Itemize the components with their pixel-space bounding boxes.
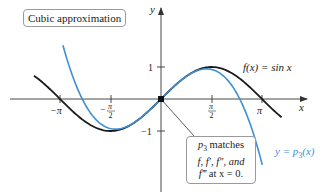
- svg-text:π: π: [108, 102, 113, 111]
- x-tick-label-half-pi: π 2: [208, 102, 216, 120]
- origin-point: [158, 96, 164, 102]
- cubic-curve-label: y = p3(x): [275, 145, 315, 160]
- annotation-box: p3 matches f, f′, f″, and f‴ at x = 0.: [186, 136, 256, 184]
- svg-text:−: −: [100, 104, 105, 114]
- svg-text:2: 2: [210, 111, 214, 120]
- note-line-2: f, f′, f″, and: [190, 156, 252, 169]
- note-line-1: p3 matches: [190, 139, 252, 156]
- annotation-pointer: [161, 99, 194, 136]
- chart-title-box: Cubic approximation: [23, 9, 126, 27]
- x-tick-label-neg-half-pi: − π 2: [100, 102, 115, 120]
- y-tick-label-1: 1: [148, 62, 153, 73]
- chart-canvas: −π − π 2 π 2 π 1 −1 x y: [0, 0, 323, 196]
- y-axis-label: y: [149, 3, 155, 15]
- svg-text:2: 2: [109, 111, 113, 120]
- svg-text:π: π: [209, 102, 214, 111]
- x-axis-label: x: [298, 101, 304, 113]
- x-tick-label-pi: π: [257, 105, 263, 116]
- y-tick-label-neg-1: −1: [141, 126, 152, 137]
- note-line-3: f‴ at x = 0.: [190, 168, 252, 181]
- x-tick-label-neg-pi: −π: [50, 105, 63, 116]
- chart-title: Cubic approximation: [28, 12, 121, 24]
- sin-curve-label: f(x) = sin x: [243, 61, 292, 73]
